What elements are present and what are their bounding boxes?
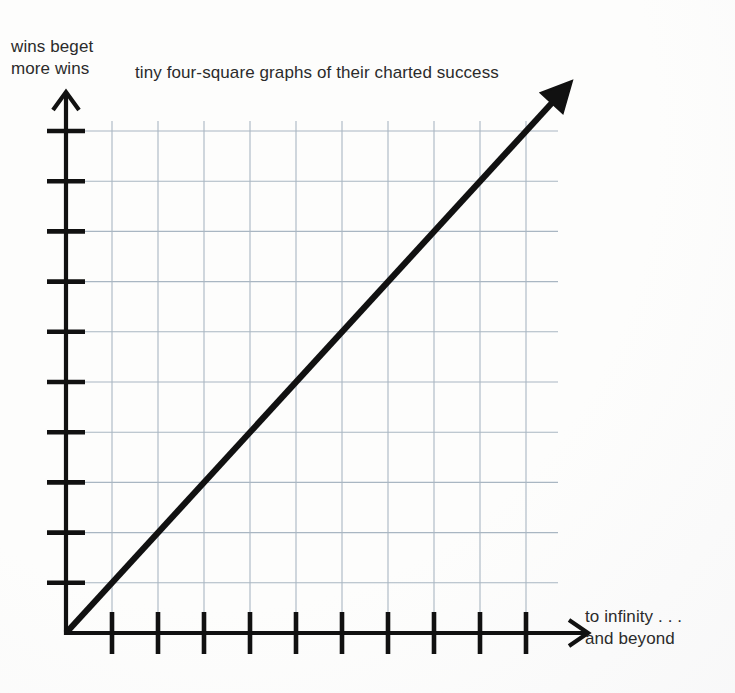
data-series bbox=[66, 81, 572, 633]
chart-page: wins begetmore wins tiny four-square gra… bbox=[0, 0, 735, 693]
chart-plot-area bbox=[0, 0, 735, 693]
trend-line bbox=[66, 95, 559, 633]
